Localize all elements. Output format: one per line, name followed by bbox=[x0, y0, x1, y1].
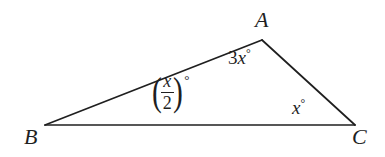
triangle-side-ac bbox=[262, 40, 355, 125]
angle-b-paren-group: ( x 2 ) bbox=[150, 72, 184, 113]
vertex-label-c: C bbox=[352, 126, 367, 148]
fraction-denominator: 2 bbox=[162, 94, 173, 113]
fraction-numerator: x bbox=[162, 72, 172, 91]
vertex-label-b: B bbox=[24, 126, 37, 148]
triangle-outline bbox=[0, 0, 385, 157]
angle-measure-a: 3x° bbox=[228, 48, 251, 67]
angle-a-coefficient: 3 bbox=[228, 47, 238, 68]
angle-a-variable: x bbox=[238, 47, 246, 68]
right-parenthesis: ) bbox=[173, 76, 183, 108]
left-parenthesis: ( bbox=[152, 76, 162, 108]
vertex-label-a: A bbox=[255, 9, 268, 31]
degree-symbol-icon-c: ° bbox=[300, 97, 305, 110]
angle-b-fraction: x 2 bbox=[161, 72, 174, 113]
degree-symbol-icon-b: ° bbox=[184, 73, 189, 86]
angle-measure-b: ( x 2 ) ° bbox=[150, 72, 190, 113]
degree-symbol-icon-a: ° bbox=[246, 47, 251, 60]
angle-measure-c: x° bbox=[292, 98, 305, 117]
triangle-diagram: A B C 3x° ( x 2 ) ° x° bbox=[0, 0, 385, 157]
